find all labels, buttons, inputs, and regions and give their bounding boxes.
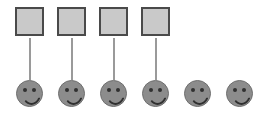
- smiley-face-icon-5[interactable]: [184, 80, 211, 107]
- square-shape-3[interactable]: [99, 7, 128, 36]
- square-shape-2[interactable]: [57, 7, 86, 36]
- diagram-canvas: [0, 0, 264, 117]
- smiley-face-icon-2[interactable]: [58, 80, 85, 107]
- square-shape-1[interactable]: [15, 7, 44, 36]
- smile-mouth-icon: [147, 90, 168, 105]
- smiley-face-icon-4[interactable]: [142, 80, 169, 107]
- square-shape-4[interactable]: [141, 7, 170, 36]
- smiley-face-icon-3[interactable]: [100, 80, 127, 107]
- smile-mouth-icon: [189, 90, 210, 105]
- smile-mouth-icon: [105, 90, 126, 105]
- connector-line-3: [113, 38, 115, 80]
- connector-line-4: [155, 38, 157, 80]
- smile-mouth-icon: [63, 90, 84, 105]
- smile-mouth-icon: [231, 90, 252, 105]
- smiley-face-icon-6[interactable]: [226, 80, 253, 107]
- connector-line-2: [71, 38, 73, 80]
- connector-line-1: [29, 38, 31, 80]
- smile-mouth-icon: [21, 90, 42, 105]
- smiley-face-icon-1[interactable]: [16, 80, 43, 107]
